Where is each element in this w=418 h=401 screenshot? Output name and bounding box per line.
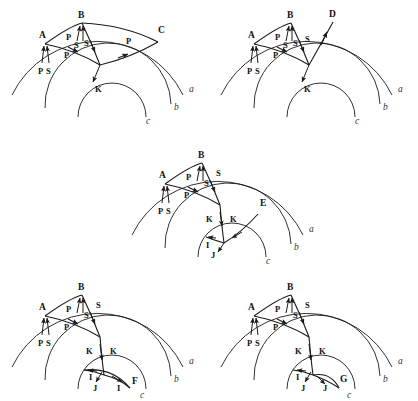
arrow-p-at-b: [197, 166, 200, 181]
label-layer-b: b: [294, 242, 299, 252]
arrow-p-at-a: [42, 46, 44, 63]
label-B: B: [78, 10, 85, 20]
arrow-p-at-a: [162, 186, 164, 203]
label-F: F: [132, 376, 138, 386]
label-S-at-b: S: [293, 38, 298, 48]
ray-path-ab-lower: [254, 44, 309, 65]
ray-path-ab-lower: [45, 316, 100, 337]
label-A: A: [39, 302, 46, 312]
label-P-at-b: P: [186, 172, 191, 182]
arrow-p-at-b: [286, 26, 289, 41]
label-S-at-a: S: [46, 66, 51, 76]
label-K: K: [95, 84, 102, 94]
label-layer-b: b: [174, 102, 179, 112]
label-I-right: I: [117, 383, 121, 393]
label-S-at-a: S: [46, 338, 51, 348]
label-P-at-a: P: [38, 66, 43, 76]
panel-4: A B F P S P S P S K K I J I a b c: [12, 282, 194, 400]
label-B: B: [287, 10, 294, 20]
arrow-p-at-a: [251, 318, 253, 335]
label-P-right: P: [126, 36, 131, 46]
inner-core-arc-c: [78, 83, 146, 117]
label-S-right: S: [96, 300, 101, 310]
label-K-left: K: [206, 214, 213, 224]
ray-path-upper: [165, 163, 202, 184]
label-S-at-a: S: [255, 66, 260, 76]
label-P-at-b: P: [66, 304, 71, 314]
label-layer-c: c: [347, 390, 352, 400]
ray-path-upper: [45, 295, 82, 316]
label-layer-c: c: [140, 390, 145, 400]
label-layer-a: a: [398, 356, 403, 366]
label-J-left: J: [301, 383, 306, 393]
label-K-right: K: [230, 214, 237, 224]
label-layer-c: c: [355, 116, 360, 126]
label-P-at-a: P: [247, 338, 252, 348]
label-P-branch: P: [273, 322, 278, 332]
label-S-branch: S: [283, 40, 288, 50]
label-B: B: [287, 282, 294, 292]
label-layer-a: a: [189, 84, 194, 94]
label-K-left: K: [295, 346, 302, 356]
label-S-at-a: S: [255, 338, 260, 348]
label-P-at-a: P: [38, 338, 43, 348]
label-layer-b: b: [383, 374, 388, 384]
label-A: A: [248, 302, 255, 312]
arrow-p-at-a: [42, 318, 44, 335]
label-K-right: K: [110, 346, 117, 356]
seismic-ray-path-figure: A B C P S P S P S P K a b c A B D P S: [0, 0, 418, 401]
label-C: C: [158, 25, 165, 35]
label-layer-a: a: [309, 224, 314, 234]
label-S-at-b: S: [84, 38, 89, 48]
label-S-at-a: S: [166, 206, 171, 216]
label-P-at-b: P: [275, 304, 280, 314]
label-layer-c: c: [146, 116, 151, 126]
label-P-branch: P: [273, 50, 278, 60]
label-I-left: I: [89, 372, 93, 382]
ray-path-ab-lower: [254, 316, 309, 337]
label-layer-c: c: [266, 256, 271, 266]
label-K-right: K: [319, 346, 326, 356]
label-layer-b: b: [174, 374, 179, 384]
label-S-at-b: S: [293, 310, 298, 320]
label-B: B: [78, 282, 85, 292]
label-J: J: [211, 250, 216, 260]
ray-path-c-upper: [82, 23, 158, 42]
label-K-left: K: [86, 346, 93, 356]
inner-core-arc-c: [287, 83, 355, 117]
arrow-p-at-b: [286, 298, 289, 313]
ray-arrow-k-up: [232, 232, 242, 238]
label-I: I: [296, 372, 300, 382]
arrow-p-at-b: [77, 298, 80, 313]
label-P-branch: P: [64, 322, 69, 332]
label-E: E: [260, 198, 266, 208]
label-layer-b: b: [383, 102, 388, 112]
panel-3: A B E P S P S P S K K I J a b c: [132, 150, 314, 266]
panel-2: A B D P S P S P S S K a b c: [221, 9, 403, 126]
label-A: A: [248, 30, 255, 40]
label-A: A: [39, 30, 46, 40]
label-B: B: [198, 150, 205, 160]
label-P-at-a: P: [158, 206, 163, 216]
label-S-right: S: [216, 168, 221, 178]
arrow-p-at-a: [251, 46, 253, 63]
label-P-branch: P: [184, 190, 189, 200]
label-S-branch: S: [74, 40, 79, 50]
arrow-p-at-b: [77, 26, 80, 41]
label-S-at-b: S: [204, 178, 209, 188]
label-layer-a: a: [189, 356, 194, 366]
ray-path-ab-lower: [45, 44, 100, 65]
panel-1: A B C P S P S P S P K a b c: [12, 10, 194, 126]
label-P-branch: P: [64, 50, 69, 60]
label-P-at-b: P: [275, 32, 280, 42]
label-S-right: S: [305, 34, 310, 44]
label-S-right: S: [305, 300, 310, 310]
ray-path-upper: [254, 295, 291, 316]
arrow-k: [93, 65, 100, 82]
label-P-at-a: P: [247, 66, 252, 76]
ray-path-ab-lower: [165, 184, 220, 205]
label-G: G: [340, 374, 348, 384]
panel-5: A B G P S P S P S K K I J J a b c: [221, 282, 403, 400]
arrow-k: [302, 65, 309, 82]
figure-canvas: A B C P S P S P S P K a b c A B D P S: [0, 0, 418, 401]
